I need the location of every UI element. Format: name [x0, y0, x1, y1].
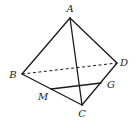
label-d: D	[119, 57, 128, 68]
label-c: C	[78, 108, 86, 119]
label-m: M	[37, 91, 49, 102]
label-g: G	[107, 79, 115, 90]
label-a: A	[65, 3, 73, 14]
segment-mg	[51, 83, 101, 89]
edge-ac	[70, 18, 82, 105]
edge-ab	[22, 18, 70, 74]
label-b: B	[8, 69, 16, 80]
edge-bd-hidden	[22, 63, 117, 74]
edge-ad	[70, 18, 117, 63]
tetrahedron-diagram: A B C D M G	[0, 0, 137, 131]
